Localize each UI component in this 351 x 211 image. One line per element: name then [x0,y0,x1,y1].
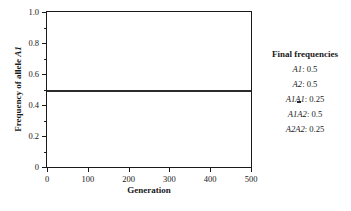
y-axis-title: Frequency of allele A1 [14,11,28,168]
y-axis-tick-label: 0 [35,163,39,172]
y-axis-tick-label: 0.6 [28,70,39,79]
series-line-allele-a1 [47,90,251,92]
x-axis-tick [88,167,89,172]
legend-row-name: A1A1 [286,94,305,104]
y-axis-tick-label: 0.2 [28,132,39,141]
x-axis-tick-label: 100 [81,175,94,184]
y-axis-minor-tick [44,59,47,60]
legend-row-value: 0.25 [309,94,324,104]
figure: Frequency of allele A1 00.20.40.60.81.00… [0,0,351,211]
legend-row-value: 0.5 [307,64,318,74]
y-axis-minor-tick [44,90,47,91]
y-axis-title-text: Frequency of allele [13,57,23,132]
y-axis-minor-tick [44,28,47,29]
y-axis-minor-tick [44,121,47,122]
x-axis-tick [47,167,48,172]
legend-row-name: A2 [293,79,303,89]
legend-row: A1A2: 0.5 [262,110,348,119]
x-axis-tick-label: 300 [163,175,176,184]
legend-row-value: 0.5 [311,109,322,119]
legend-row: A2A2: 0.25 [262,125,348,134]
legend-row-value: 0.5 [307,79,318,89]
legend-row: A1: 0.5 [262,65,348,74]
x-axis-tick [169,167,170,172]
x-axis-tick-label: 200 [122,175,135,184]
y-axis-tick [42,43,47,44]
legend-row: A2: 0.5 [262,80,348,89]
y-axis-tick-label: 1.0 [28,8,39,17]
y-axis-tick [42,74,47,75]
legend-title: Final frequencies [262,50,348,59]
x-axis-tick [251,167,252,172]
x-axis-tick [129,167,130,172]
y-axis-tick [42,136,47,137]
y-axis-tick-label: 0.4 [28,101,39,110]
y-axis-tick [42,105,47,106]
y-axis-tick [42,12,47,13]
y-axis-title-allele: A1 [13,46,23,57]
x-axis-title: Generation [46,186,252,195]
x-axis-tick [210,167,211,172]
x-axis-tick-label: 400 [204,175,217,184]
legend-row-value: 0.25 [309,124,324,134]
legend: Final frequencies A1: 0.5 A2: 0.5 A1A1: … [262,50,348,140]
x-axis-tick-label: 500 [245,175,258,184]
legend-row: A1A1: 0.25 [262,95,348,104]
y-axis-minor-tick [44,152,47,153]
y-axis-tick-label: 0.8 [28,39,39,48]
legend-row-name: A1 [293,64,303,74]
x-axis-tick-label: 0 [45,175,49,184]
legend-row-name: A1A2 [288,109,307,119]
plot-area: 00.20.40.60.81.00100200300400500 [46,11,252,168]
legend-row-name: A2A2 [286,124,305,134]
